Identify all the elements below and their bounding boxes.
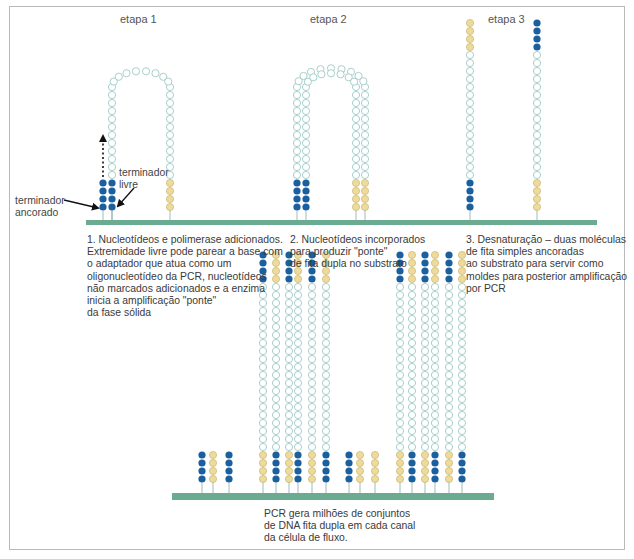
bottom-caption: PCR gera milhões de conjuntos de DNA fit… <box>264 508 415 545</box>
step-3-caption: 3. Desnaturação – duas moléculas de fita… <box>466 234 627 295</box>
stage-1-hairpin <box>99 68 173 220</box>
stage-2-label: etapa 2 <box>310 13 347 25</box>
stage-3-denatured-strands <box>466 19 540 220</box>
step-1-caption: 1. Nucleotídeos e polimerase adicionados… <box>87 234 283 319</box>
stage-1-label: etapa 1 <box>120 13 157 25</box>
stage-3-label: etapa 3 <box>488 13 525 25</box>
top-substrate-bar <box>86 220 597 225</box>
stage-2-double-bridge <box>293 65 368 220</box>
free-end-label: terminador livre <box>119 167 169 190</box>
anchored-end-arrow-icon <box>64 200 98 208</box>
step-2-caption: 2. Nucleotídeos incorporados para produz… <box>290 234 425 271</box>
free-end-arrow-icon <box>118 188 134 206</box>
anchored-end-label: terminador ancorado <box>15 195 65 218</box>
